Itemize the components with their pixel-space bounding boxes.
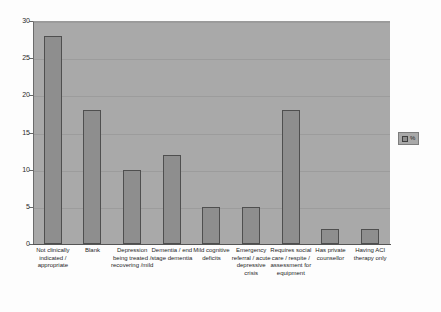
x-tick-label: Dementia / end stage dementia [150, 247, 194, 262]
bar-slot [152, 21, 192, 244]
y-tick-label: 10 [4, 166, 30, 174]
x-axis-line [33, 244, 391, 245]
bar-series [33, 21, 390, 244]
bar-slot [112, 21, 152, 244]
bar-slot [192, 21, 232, 244]
bar[interactable] [163, 155, 181, 244]
bar-chart: 051015202530 Not clinically indicated / … [0, 0, 441, 312]
bar[interactable] [83, 110, 101, 244]
x-axis-labels: Not clinically indicated / appropriateBl… [33, 247, 390, 309]
bar-slot [311, 21, 351, 244]
x-tick-label: Has private counsellor [309, 247, 353, 262]
bar[interactable] [44, 36, 62, 244]
bar[interactable] [321, 229, 339, 244]
bar-slot [231, 21, 271, 244]
bar-slot [73, 21, 113, 244]
bar-slot [350, 21, 390, 244]
x-tick-label: Depression being treated / recovering /m… [110, 247, 154, 270]
y-tick-label: 20 [4, 91, 30, 99]
y-tick-label: 15 [4, 129, 30, 137]
y-tick-label: 0 [4, 240, 30, 248]
legend-swatch-icon [402, 136, 408, 142]
bar[interactable] [361, 229, 379, 244]
x-tick-label: Having ACI therapy only [348, 247, 392, 262]
x-tick-label: Requires social care / respite / assessm… [269, 247, 313, 277]
bar-slot [271, 21, 311, 244]
x-tick-label: Mild cognitive deficits [190, 247, 234, 262]
bar[interactable] [282, 110, 300, 244]
y-tick-label: 25 [4, 54, 30, 62]
chart-legend[interactable]: % [398, 132, 419, 145]
bar[interactable] [202, 207, 220, 244]
y-tick-label: 5 [4, 203, 30, 211]
x-tick-label: Blank [71, 247, 115, 255]
legend-label: % [410, 135, 415, 142]
bar-slot [33, 21, 73, 244]
x-tick-label: Not clinically indicated / appropriate [31, 247, 75, 270]
y-axis: 051015202530 [0, 0, 30, 312]
x-tick-label: Emergency referral / acute depressive cr… [229, 247, 273, 277]
bar[interactable] [123, 170, 141, 244]
y-tick-label: 30 [4, 17, 30, 25]
bar[interactable] [242, 207, 260, 244]
